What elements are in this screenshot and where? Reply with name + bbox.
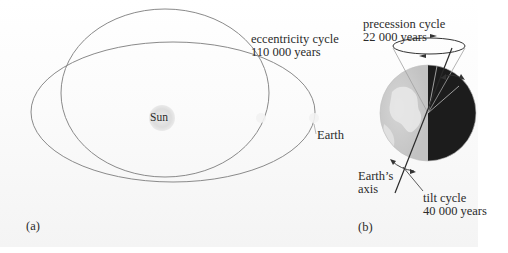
sun-label: Sun bbox=[150, 111, 168, 124]
panel-a-label: (a) bbox=[26, 220, 40, 233]
earth-marker-outer-orbit bbox=[309, 113, 319, 123]
earth-label-pointer bbox=[314, 124, 316, 134]
eccentricity-period: 110 000 years bbox=[251, 46, 339, 59]
precession-arrow-bottom-icon bbox=[419, 54, 426, 58]
tilt-period: 40 000 years bbox=[423, 205, 487, 218]
earth-label: Earth bbox=[317, 129, 344, 142]
earth-marker-inner-orbit bbox=[256, 113, 266, 123]
eccentricity-label: eccentricity cycle 110 000 years bbox=[251, 33, 339, 59]
orbit-circular bbox=[61, 9, 269, 177]
tilt-label: tilt cycle 40 000 years bbox=[423, 192, 487, 218]
precession-label: precession cycle 22 000 years bbox=[363, 18, 445, 44]
panel-b-label: (b) bbox=[358, 221, 373, 234]
milankovitch-cycles-figure: eccentricity cycle 110 000 years Sun Ear… bbox=[0, 0, 508, 253]
earth-axis-line2: axis bbox=[358, 183, 393, 196]
earth-axis-label: Earth’s axis bbox=[358, 170, 393, 196]
precession-period: 22 000 years bbox=[363, 31, 445, 44]
